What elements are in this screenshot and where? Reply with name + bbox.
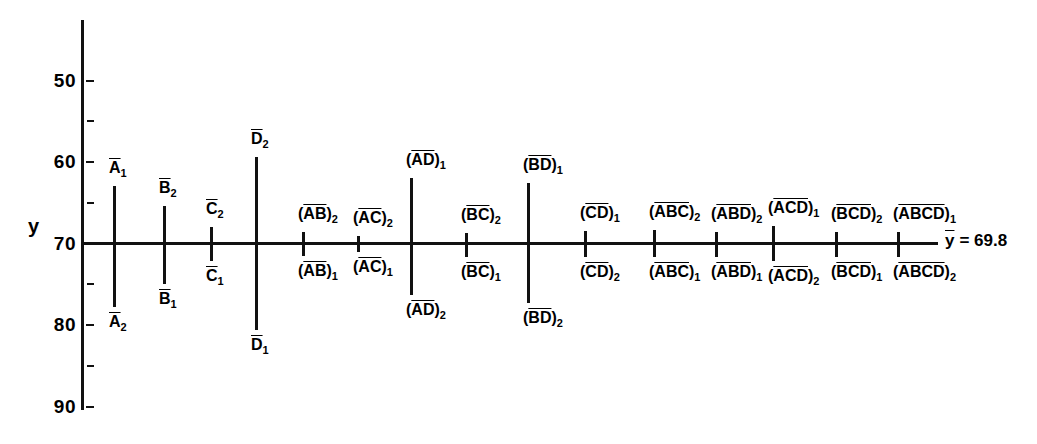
effect-label-bottom: (ABCD)2 (893, 264, 956, 281)
effect-label-bottom: (AC)1 (353, 259, 393, 276)
effect-label-top: (BC)2 (461, 207, 501, 224)
effect-bar (357, 236, 360, 251)
grand-mean-value: = 69.8 (959, 231, 1007, 250)
y-tick-label: 90 (34, 397, 76, 416)
grand-mean-annotation: y= 69.8 (945, 231, 1007, 251)
effect-label-top: B2 (159, 180, 177, 197)
effect-bar (302, 232, 305, 256)
effect-label-top: (ABC)2 (649, 204, 700, 221)
effect-label-top: (AD)1 (406, 152, 446, 169)
effect-bar (527, 183, 530, 303)
effect-label-top: D2 (251, 131, 269, 148)
effect-label-top: (ACD)1 (768, 200, 819, 217)
y-tick-major (86, 80, 94, 82)
y-bar-symbol: y (945, 231, 954, 250)
effect-bar (897, 232, 900, 256)
effects-plot: y 9080706050 A1A2B2B1C2C1D2D1(AB)2(AB)1(… (0, 0, 1037, 444)
effect-bar (653, 230, 656, 257)
effect-label-bottom: C1 (206, 268, 224, 285)
effect-bar (255, 157, 258, 330)
effect-label-bottom: A2 (109, 314, 127, 331)
effect-bar (715, 232, 718, 256)
effect-label-top: (BD)1 (523, 157, 563, 174)
y-axis-line (81, 20, 84, 410)
effect-label-bottom: D1 (251, 337, 269, 354)
effect-bar (835, 232, 838, 256)
effect-label-top: (ABD)2 (711, 206, 762, 223)
y-tick-label: 80 (34, 315, 76, 334)
y-tick-minor (87, 120, 94, 122)
effect-label-bottom: (ACD)2 (768, 268, 819, 285)
effect-bar (584, 231, 587, 256)
effect-label-bottom: (BC)1 (461, 264, 501, 281)
effect-label-bottom: (AD)2 (406, 302, 446, 319)
effect-label-top: (CD)1 (580, 205, 620, 222)
y-tick-label: 50 (34, 71, 76, 90)
effect-label-bottom: (AB)1 (298, 263, 338, 280)
effect-label-top: A1 (109, 160, 127, 177)
effect-bar (113, 186, 116, 307)
effect-label-bottom: B1 (159, 291, 177, 308)
y-tick-major (86, 243, 94, 245)
y-tick-minor (87, 202, 94, 204)
effect-bar (210, 227, 213, 260)
y-tick-minor (87, 283, 94, 285)
effect-label-top: (AC)2 (353, 210, 393, 227)
y-tick-major (86, 406, 94, 408)
y-tick-label: 60 (34, 152, 76, 171)
effect-label-top: (BCD)2 (831, 206, 882, 223)
effect-bar (465, 233, 468, 257)
effect-label-top: (ABCD)1 (893, 206, 956, 223)
effect-bar (772, 226, 775, 262)
y-tick-minor (87, 365, 94, 367)
y-tick-label: 70 (34, 234, 76, 253)
effect-label-bottom: (ABC)1 (649, 264, 700, 281)
effect-label-bottom: (ABD)1 (711, 264, 762, 281)
effect-bar (163, 206, 166, 284)
effect-label-bottom: (BCD)1 (831, 264, 882, 281)
effect-label-top: C2 (206, 201, 224, 218)
y-tick-major (86, 161, 94, 163)
effect-bar (410, 178, 413, 295)
effect-label-bottom: (BD)2 (523, 310, 563, 327)
effect-label-bottom: (CD)2 (580, 264, 620, 281)
y-tick-major (86, 324, 94, 326)
effect-label-top: (AB)2 (298, 206, 338, 223)
